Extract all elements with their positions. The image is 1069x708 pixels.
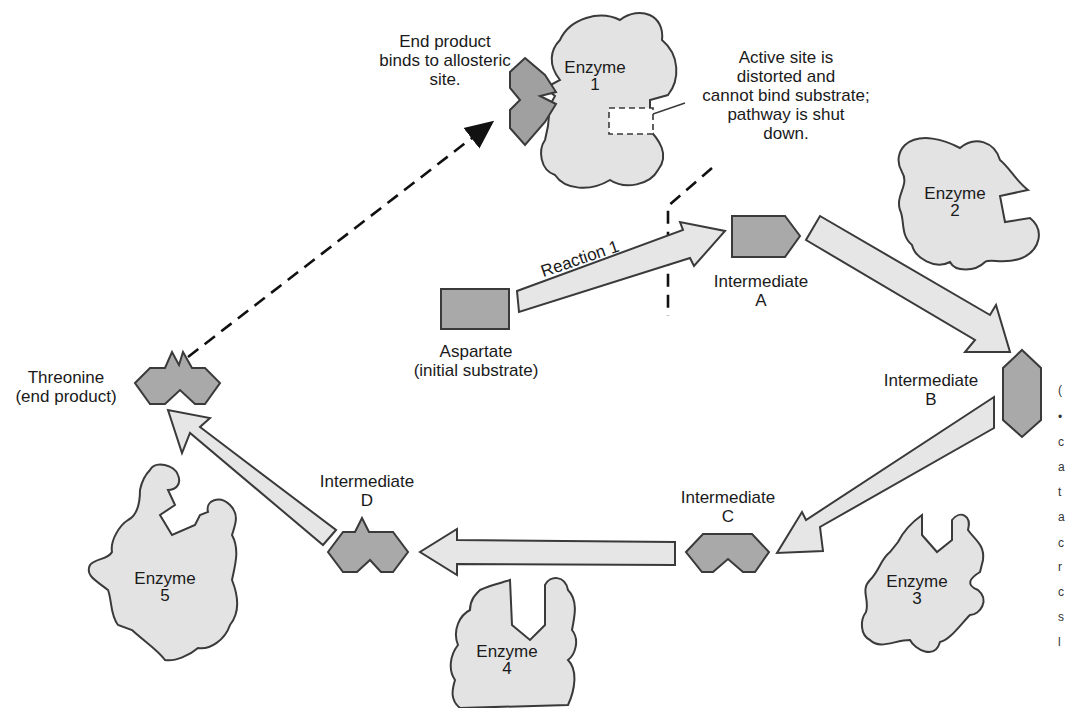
enzyme-number: 2 [924,202,985,219]
molecule-letter: A [714,291,809,310]
annotation-line: Active site is [702,48,869,67]
threonine-molecule [135,352,220,404]
molecule-name: Intermediate [714,272,809,291]
edge-fragment: s [1058,610,1064,624]
enzyme-3-label: Enzyme 3 [886,573,947,607]
enzyme-1-label: Enzyme 1 [564,59,625,93]
annotation-line: distorted and [702,67,869,86]
molecule-name: Aspartate [414,342,539,361]
edge-fragment: l [1058,635,1061,649]
aspartate-label: Aspartate (initial substrate) [414,342,539,380]
edge-fragment: a [1058,510,1065,524]
annotation-line: site. [379,70,510,89]
molecule-letter: C [681,507,776,526]
intermediate-b-molecule [1003,350,1041,437]
intermediate-a-label: Intermediate A [714,272,809,310]
intermediate-a-molecule [732,216,800,257]
annotation-line: binds to allosteric [379,51,510,70]
edge-fragment: • [1058,410,1062,424]
edge-fragment: c [1058,585,1064,599]
threonine-pathway-diagram: End product binds to allosteric site. Ac… [0,0,1069,708]
enzyme-1-shape [541,13,685,188]
intermediate-b-label: Intermediate B [884,371,979,409]
enzyme-number: 5 [134,587,195,604]
enzyme-number: 3 [886,590,947,607]
enzyme-name: Enzyme [886,573,947,590]
edge-fragment: c [1058,435,1064,449]
intermediate-c-label: Intermediate C [681,488,776,526]
intermediate-c-molecule [686,534,769,572]
edge-fragment: t [1058,485,1061,499]
enzyme-number: 4 [476,660,537,677]
molecule-name: Intermediate [681,488,776,507]
edge-fragment: r [1058,560,1062,574]
molecule-letter: B [884,390,979,409]
enzyme-number: 1 [564,76,625,93]
enzyme-name: Enzyme [564,59,625,76]
enzyme-name: Enzyme [476,643,537,660]
molecule-name: Intermediate [320,472,415,491]
reaction-4-arrow [420,529,675,575]
enzyme-name: Enzyme [134,570,195,587]
molecule-name: Threonine [15,368,116,387]
edge-fragment: ( [1058,383,1062,397]
edge-fragment: c [1058,536,1064,550]
annotation-line: cannot bind substrate; [702,86,869,105]
enzyme-5-label: Enzyme 5 [134,570,195,604]
molecule-role: (end product) [15,387,116,406]
allosteric-annotation: End product binds to allosteric site. [379,32,510,89]
molecule-name: Intermediate [884,371,979,390]
edge-fragment: a [1058,460,1065,474]
intermediate-d-molecule [328,518,408,572]
intermediate-d-label: Intermediate D [320,472,415,510]
enzyme-4-label: Enzyme 4 [476,643,537,677]
annotation-line: down. [702,124,869,143]
enzyme-name: Enzyme [924,185,985,202]
enzyme-2-label: Enzyme 2 [924,185,985,219]
annotation-line: End product [379,32,510,51]
cropped-adjacent-text: ( • c a t a c r c s l [1056,0,1069,708]
threonine-label: Threonine (end product) [15,368,116,406]
active-site-annotation: Active site is distorted and cannot bind… [702,48,869,143]
enzyme-5-shape [89,465,237,661]
aspartate-molecule [441,289,509,329]
molecule-letter: D [320,491,415,510]
molecule-role: (initial substrate) [414,361,539,380]
annotation-line: pathway is shut [702,105,869,124]
